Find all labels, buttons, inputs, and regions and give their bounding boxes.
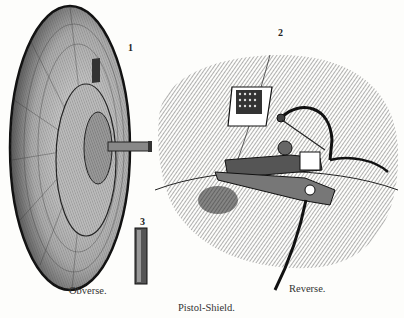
caption-obverse: Obverse. — [69, 285, 107, 296]
engraving-artwork — [0, 0, 404, 318]
figure-number-3: 3 — [140, 216, 145, 227]
figure-number-2: 2 — [278, 27, 283, 38]
engraving-illustration: 1 2 3 Obverse. Reverse. Pistol-Shield. — [0, 0, 404, 318]
figure-number-1: 1 — [128, 42, 133, 53]
barrel-tube — [135, 228, 147, 284]
caption-reverse: Reverse. — [289, 283, 325, 294]
shield-reverse — [155, 55, 398, 290]
figure-title: Pistol-Shield. — [178, 302, 235, 313]
